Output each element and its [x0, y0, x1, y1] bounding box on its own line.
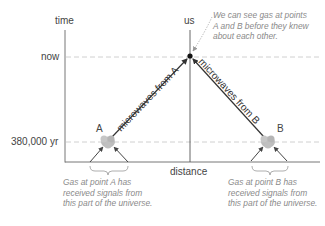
380000yr-tick-label: 380,000 yr: [11, 136, 58, 147]
point-b-label: B: [277, 123, 284, 134]
observer-dot: [187, 53, 192, 58]
brace-a: [90, 166, 128, 175]
point-a-note-line-3: this part of the universe.: [63, 198, 152, 209]
point-b-note-line-2: received signals from: [228, 188, 317, 199]
signal-arrow-a-left: [90, 147, 103, 162]
microwaves-a-label: microwaves from A: [114, 64, 180, 133]
distance-axis-label: distance: [170, 166, 207, 177]
point-b-note-line-3: this part of the universe.: [228, 198, 317, 209]
observer-note-pointer: [193, 17, 212, 51]
observer-note-line-3: about each other.: [213, 31, 309, 42]
point-b-note: Gas at point B has received signals from…: [228, 177, 317, 209]
cosmic-horizon-diagram: microwaves from A microwaves from B time…: [0, 0, 325, 226]
signal-arrow-a-right: [114, 147, 128, 162]
now-tick-label: now: [41, 51, 59, 62]
point-a-note-line-1: Gas at point A has: [63, 177, 152, 188]
microwaves-b-label: microwaves from B: [197, 56, 263, 126]
gas-cloud-a-icon: [101, 136, 116, 149]
observer-label: us: [184, 15, 195, 26]
time-axis-label: time: [55, 15, 74, 26]
point-a-note: Gas at point A has received signals from…: [63, 177, 152, 209]
point-a-label: A: [96, 123, 103, 134]
point-b-note-line-1: Gas at point B has: [228, 177, 317, 188]
observer-note-line-2: A and B before they knew: [213, 21, 309, 32]
point-a-note-line-2: received signals from: [63, 188, 152, 199]
brace-b: [252, 166, 288, 175]
signal-arrow-b-right: [274, 147, 287, 161]
observer-note: We can see gas at points A and B before …: [213, 10, 309, 42]
observer-note-line-1: We can see gas at points: [213, 10, 309, 21]
signal-arrow-b-left: [251, 147, 263, 161]
gas-cloud-b-icon: [261, 136, 276, 149]
